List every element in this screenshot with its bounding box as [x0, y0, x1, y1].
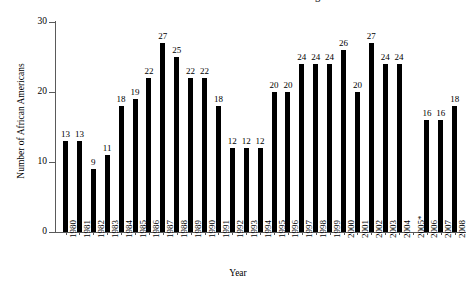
y-tick-label: 0 — [7, 227, 47, 237]
x-axis-title: Year — [0, 268, 476, 278]
bar-value-label: 22 — [194, 67, 216, 76]
chart-figure: African American Architecture UVCU Under… — [0, 0, 476, 288]
bar — [397, 64, 402, 232]
bar — [355, 92, 360, 232]
x-tick-mark — [399, 232, 400, 235]
x-tick-mark — [135, 232, 136, 235]
x-tick-mark — [330, 232, 331, 235]
bar-value-label: 20 — [346, 81, 368, 90]
x-tick-mark — [316, 232, 317, 235]
bar-value-label: 18 — [444, 95, 466, 104]
bar-value-label: 12 — [249, 137, 271, 146]
x-tick-label: 2004 — [403, 220, 412, 238]
x-tick-mark — [344, 232, 345, 235]
y-tick-label: 20 — [7, 87, 47, 97]
bar — [258, 148, 263, 232]
bar — [91, 169, 96, 232]
bar — [160, 43, 165, 232]
bar — [133, 99, 138, 232]
x-tick-mark — [455, 232, 456, 235]
bar — [272, 92, 277, 232]
bar — [202, 78, 207, 232]
bar — [244, 148, 249, 232]
x-tick-mark — [121, 232, 122, 235]
x-tick-mark — [288, 232, 289, 235]
bar — [188, 78, 193, 232]
x-tick-mark — [274, 232, 275, 235]
bar-value-label: 13 — [68, 130, 90, 139]
x-tick-mark — [163, 232, 164, 235]
y-tick-label: 10 — [7, 157, 47, 167]
x-tick-mark — [66, 232, 67, 235]
bar — [216, 106, 221, 232]
bar — [77, 141, 82, 232]
bar-value-label: 25 — [166, 46, 188, 55]
bar — [174, 57, 179, 232]
x-tick-mark — [218, 232, 219, 235]
y-axis-title: Number of African Americans — [16, 36, 26, 206]
y-tick-mark — [49, 22, 56, 23]
y-tick-mark — [49, 232, 56, 233]
x-tick-mark — [385, 232, 386, 235]
x-tick-mark — [302, 232, 303, 235]
bar-value-label: 26 — [333, 39, 355, 48]
bar — [230, 148, 235, 232]
bar-value-label: 24 — [388, 53, 410, 62]
x-tick-mark — [191, 232, 192, 235]
bar-value-label: 16 — [430, 109, 452, 118]
x-tick-mark — [371, 232, 372, 235]
bar — [105, 155, 110, 232]
bar — [438, 120, 443, 232]
x-tick-mark — [427, 232, 428, 235]
bar — [285, 92, 290, 232]
bar — [369, 43, 374, 232]
y-tick-mark — [49, 162, 56, 163]
chart-title: African American Architecture UVCU Under… — [0, 0, 476, 2]
bar-value-label: 27 — [360, 32, 382, 41]
x-tick-mark — [246, 232, 247, 235]
bar-value-label: 19 — [124, 88, 146, 97]
bar-value-label: 18 — [207, 95, 229, 104]
x-tick-mark — [149, 232, 150, 235]
bar-value-label: 20 — [277, 81, 299, 90]
x-tick-mark — [260, 232, 261, 235]
bar — [424, 120, 429, 232]
x-tick-mark — [205, 232, 206, 235]
bar — [383, 64, 388, 232]
x-tick-mark — [413, 232, 414, 235]
bar — [452, 106, 457, 232]
bar — [341, 50, 346, 232]
bar — [119, 106, 124, 232]
bar — [327, 64, 332, 232]
bar-value-label: 11 — [96, 144, 118, 153]
bar — [313, 64, 318, 232]
x-tick-mark — [177, 232, 178, 235]
x-tick-mark — [107, 232, 108, 235]
y-tick-mark — [49, 92, 56, 93]
bar-value-label: 27 — [152, 32, 174, 41]
x-tick-label: 2008 — [458, 220, 467, 238]
x-tick-mark — [79, 232, 80, 235]
x-tick-mark — [357, 232, 358, 235]
bar — [146, 78, 151, 232]
x-tick-mark — [232, 232, 233, 235]
bar-value-label: 24 — [319, 53, 341, 62]
bar — [299, 64, 304, 232]
bar — [63, 141, 68, 232]
x-tick-mark — [93, 232, 94, 235]
y-tick-label: 30 — [7, 17, 47, 27]
bar-value-label: 22 — [138, 67, 160, 76]
bar-value-label: 9 — [82, 158, 104, 167]
x-tick-mark — [441, 232, 442, 235]
